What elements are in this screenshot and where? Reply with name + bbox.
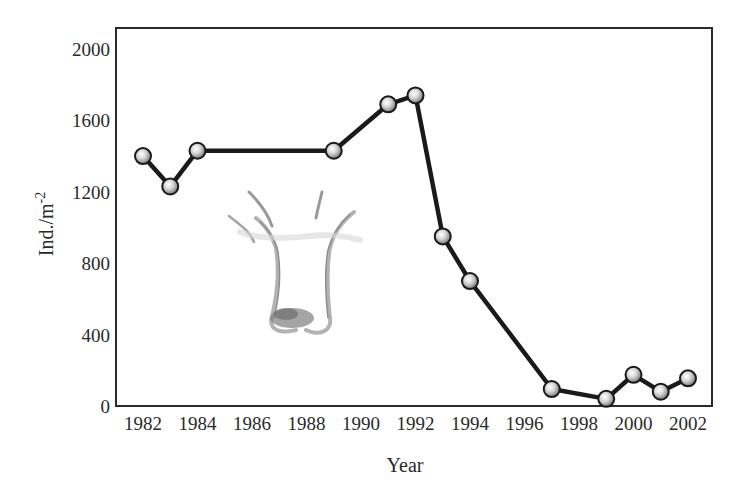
data-series-line	[143, 95, 688, 399]
y-axis-title: Ind./m-2	[33, 192, 57, 256]
x-tick-label: 2000	[615, 413, 653, 434]
data-point-marker	[380, 96, 396, 112]
data-series-markers	[135, 87, 696, 406]
data-point-marker	[462, 273, 478, 289]
data-point-marker	[626, 367, 642, 383]
line-chart: 0400800120016002000 19821984198619881990…	[0, 0, 738, 501]
y-tick-label: 1200	[72, 182, 110, 203]
x-axis-title: Year	[387, 454, 424, 476]
x-axis-tick-labels: 1982198419861988199019921994199619982000…	[124, 413, 707, 434]
x-tick-label: 1984	[179, 413, 218, 434]
plot-frame	[116, 28, 712, 406]
data-point-marker	[653, 384, 669, 400]
y-tick-label: 1600	[72, 110, 110, 131]
y-tick-label: 2000	[72, 39, 110, 60]
data-point-marker	[135, 148, 151, 164]
x-tick-label: 1998	[560, 413, 598, 434]
y-tick-label: 800	[82, 253, 111, 274]
x-tick-label: 1988	[288, 413, 326, 434]
data-point-marker	[544, 381, 560, 397]
x-tick-label: 1982	[124, 413, 162, 434]
worm-illustration	[229, 192, 360, 333]
y-tick-label: 400	[82, 325, 111, 346]
data-point-marker	[190, 143, 206, 159]
data-point-marker	[435, 228, 451, 244]
data-point-marker	[326, 143, 342, 159]
x-tick-label: 1986	[233, 413, 271, 434]
x-tick-label: 1994	[451, 413, 490, 434]
x-tick-label: 1990	[342, 413, 380, 434]
data-point-marker	[680, 370, 696, 386]
data-point-marker	[598, 391, 614, 407]
y-axis-tick-labels: 0400800120016002000	[72, 39, 110, 417]
x-tick-label: 1996	[506, 413, 544, 434]
data-point-marker	[162, 178, 178, 194]
x-tick-label: 2002	[669, 413, 707, 434]
data-point-marker	[408, 87, 424, 103]
y-tick-label: 0	[101, 396, 111, 417]
x-tick-label: 1992	[397, 413, 435, 434]
